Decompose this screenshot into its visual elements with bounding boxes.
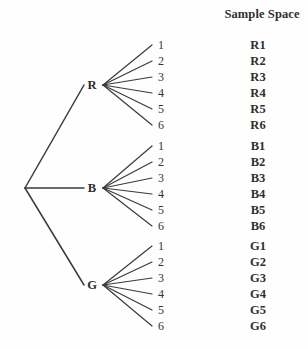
branch-root-to-g <box>25 188 84 285</box>
tree-branch-lines <box>0 0 308 349</box>
tree-diagram-canvas: Sample Space R1R12R23R34R45R56R6B1B12B23… <box>0 0 308 349</box>
branch-b-to-3 <box>103 178 152 188</box>
stage2-branch-group <box>103 45 152 326</box>
branch-b-to-2 <box>103 162 152 188</box>
branch-g-to-4 <box>103 285 152 294</box>
branch-g-to-6 <box>103 285 152 326</box>
stage1-branch-group <box>25 85 84 285</box>
branch-root-to-r <box>25 85 84 188</box>
branch-b-to-1 <box>103 146 152 188</box>
